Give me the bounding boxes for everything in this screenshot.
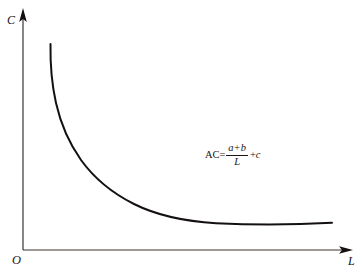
ac-curve bbox=[50, 44, 332, 224]
origin-label: O bbox=[12, 254, 21, 267]
equation-tail: +c bbox=[250, 150, 261, 161]
y-axis-label: C bbox=[7, 14, 15, 26]
ac-curve-figure: C L O AC= a+b L +c bbox=[0, 0, 363, 277]
plot-area bbox=[0, 0, 363, 277]
equation-constant: c bbox=[256, 149, 261, 160]
x-axis-label: L bbox=[348, 255, 355, 267]
equation-equals-sign: = bbox=[219, 150, 225, 161]
equation-fraction: a+b L bbox=[226, 143, 248, 167]
equation-lhs: AC bbox=[205, 150, 219, 161]
fraction-numerator: a+b bbox=[226, 143, 248, 155]
fraction-denominator: L bbox=[232, 156, 242, 168]
equation-annotation: AC= a+b L +c bbox=[205, 143, 261, 167]
